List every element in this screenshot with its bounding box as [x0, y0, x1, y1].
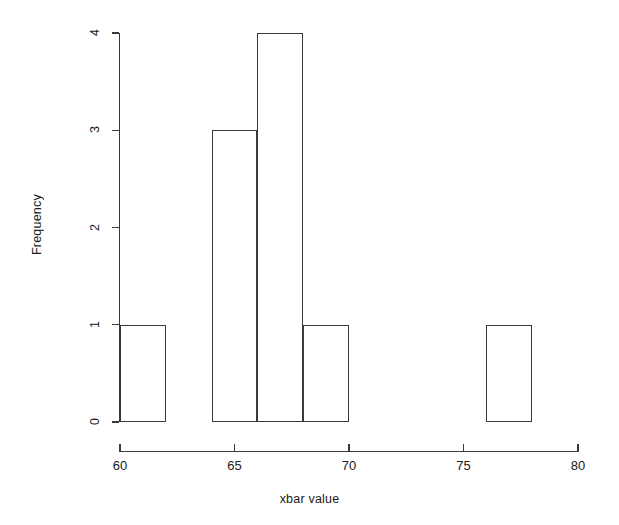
histogram-bar: [212, 130, 258, 422]
y-axis-tick: [112, 32, 119, 33]
y-axis-tick-label: 2: [88, 221, 108, 235]
histogram-figure: 01234 Frequency 6065707580 xbar value: [0, 0, 619, 525]
x-axis-tick: [234, 444, 235, 452]
y-axis-tick-label: 4: [88, 26, 108, 40]
x-axis-title: xbar value: [0, 492, 619, 506]
histogram-bar: [486, 325, 532, 422]
y-axis-tick-label: 0: [88, 415, 108, 429]
y-axis-tick: [112, 227, 119, 228]
x-axis-tick-label: 70: [329, 458, 369, 474]
x-axis-tick-label: 75: [444, 458, 484, 474]
y-axis-title: Frequency: [30, 165, 44, 285]
x-axis-tick-label: 60: [100, 458, 140, 474]
histogram-bar: [257, 33, 303, 422]
y-axis-tick-label: 3: [88, 123, 108, 137]
x-axis-tick: [463, 444, 464, 452]
y-axis-tick: [112, 130, 119, 131]
x-axis-tick-label: 80: [558, 458, 598, 474]
y-axis-tick: [112, 324, 119, 325]
histogram-bar: [303, 325, 349, 422]
y-axis-line: [119, 33, 120, 422]
x-axis-tick: [348, 444, 349, 452]
plot-area: [120, 33, 578, 422]
x-axis-tick: [577, 444, 578, 452]
y-axis-tick-label: 1: [88, 318, 108, 332]
x-axis-tick: [119, 444, 120, 452]
histogram-bar: [120, 325, 166, 422]
y-axis-tick: [112, 421, 119, 422]
x-axis-tick-label: 65: [215, 458, 255, 474]
